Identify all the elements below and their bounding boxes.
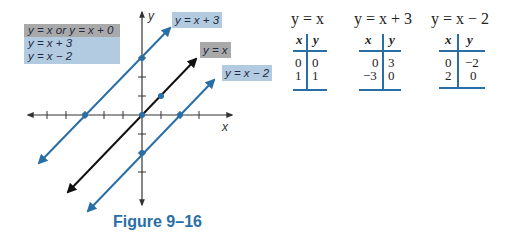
legend-row-plus3: y = x + 3 <box>24 37 120 50</box>
table-cell: 0 <box>470 68 477 84</box>
table-header-rule <box>439 50 485 52</box>
table-divider <box>306 34 308 91</box>
table-header-rule <box>359 50 401 52</box>
table-bottom-rule <box>293 89 327 91</box>
table-divider <box>382 34 384 91</box>
table-cell: −3 <box>363 68 377 84</box>
table-header-x: x <box>296 32 303 48</box>
table-cell: 2 <box>445 68 452 84</box>
table-header-x: x <box>365 32 372 48</box>
label-y-equals-x-plus-3: y = x + 3 <box>172 12 222 28</box>
table-header-y: y <box>389 32 395 48</box>
table-cell: 0 <box>388 68 395 84</box>
y-axis-label: y <box>148 9 154 23</box>
line-y-equals-x-minus-2 <box>88 80 214 211</box>
table-header-y: y <box>313 32 319 48</box>
legend-row-minus2: y = x − 2 <box>24 50 120 64</box>
table-divider <box>457 34 459 89</box>
legend-row-identity: y = x or y = x + 0 <box>24 24 120 37</box>
legend-box: y = x or y = x + 0 y = x + 3 y = x − 2 <box>24 24 120 64</box>
table-title: y = x <box>291 10 324 28</box>
x-axis-label: x <box>222 120 228 134</box>
table-title: y = x − 2 <box>431 10 489 28</box>
table-header-y: y <box>467 32 473 48</box>
table-header-x: x <box>445 32 452 48</box>
label-y-equals-x: y = x <box>200 42 231 58</box>
line-y-equals-x <box>68 59 196 192</box>
table-bottom-rule <box>359 89 401 91</box>
figure-caption: Figure 9–16 <box>113 213 202 231</box>
table-bottom-rule <box>439 87 485 89</box>
table-title: y = x + 3 <box>354 10 412 28</box>
table-cell: 1 <box>312 68 319 84</box>
plotted-points <box>82 55 183 156</box>
label-y-equals-x-minus-2: y = x − 2 <box>222 65 272 81</box>
table-header-rule <box>293 50 327 52</box>
table-cell: 1 <box>295 68 302 84</box>
